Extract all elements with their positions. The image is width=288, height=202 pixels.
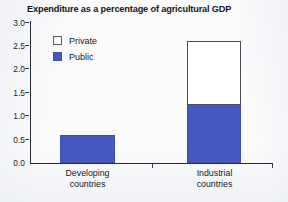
bar-segment-developing-public[interactable] bbox=[60, 135, 115, 163]
y-tick-mark-2-0 bbox=[25, 68, 29, 69]
legend-swatch-private-icon bbox=[53, 36, 62, 45]
bar-segment-industrial-private[interactable] bbox=[187, 41, 241, 105]
x-category-label-developing-line2: countries bbox=[48, 179, 127, 190]
y-tick-mark-2-5 bbox=[25, 45, 29, 46]
x-tick-mark-mid bbox=[152, 164, 153, 168]
chart-legend: Private Public bbox=[53, 34, 97, 66]
y-tick-label-0-5: 0.5 bbox=[13, 135, 25, 145]
y-tick-mark-0-5 bbox=[25, 139, 29, 140]
legend-swatch-public-icon bbox=[53, 52, 62, 61]
x-category-label-industrial-line2: countries bbox=[175, 179, 254, 190]
x-category-label-industrial: Industrial countries bbox=[175, 168, 254, 190]
bar-segment-industrial-public[interactable] bbox=[187, 104, 241, 163]
y-tick-mark-3-0 bbox=[25, 22, 29, 23]
y-tick-mark-1-5 bbox=[25, 92, 29, 93]
chart-container: Expenditure as a percentage of agricultu… bbox=[0, 0, 288, 202]
x-tick-mark-right bbox=[272, 164, 273, 168]
y-tick-label-1-0: 1.0 bbox=[13, 111, 25, 121]
y-tick-label-3-0: 3.0 bbox=[13, 18, 25, 28]
y-tick-label-1-5: 1.5 bbox=[13, 88, 25, 98]
y-axis-tick-labels: 3.0 2.5 2.0 1.5 1.0 0.5 0.0 bbox=[0, 0, 25, 202]
x-category-label-developing: Developing countries bbox=[48, 168, 127, 190]
y-tick-label-2-0: 2.0 bbox=[13, 64, 25, 74]
y-tick-mark-1-0 bbox=[25, 115, 29, 116]
y-axis-line bbox=[30, 21, 31, 164]
y-tick-label-0-0: 0.0 bbox=[13, 158, 25, 168]
legend-item-public[interactable]: Public bbox=[53, 50, 97, 63]
y-tick-label-2-5: 2.5 bbox=[13, 41, 25, 51]
x-category-label-developing-line1: Developing bbox=[48, 168, 127, 179]
chart-title: Expenditure as a percentage of agricultu… bbox=[27, 4, 231, 14]
legend-label-private: Private bbox=[69, 36, 97, 46]
legend-item-private[interactable]: Private bbox=[53, 34, 97, 47]
legend-label-public: Public bbox=[69, 52, 94, 62]
x-category-label-industrial-line1: Industrial bbox=[175, 168, 254, 179]
